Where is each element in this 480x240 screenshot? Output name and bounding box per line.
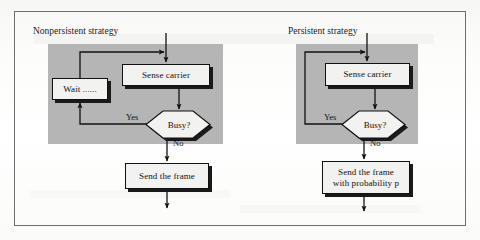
node-busy-persistent[interactable]: Busy? [345, 111, 405, 138]
node-sense-carrier-nonpersistent[interactable]: Sense carrier [122, 64, 210, 86]
edge-label-yes-nonpersistent: Yes [126, 112, 138, 122]
node-send-frame-label-line2: with probability p [333, 178, 399, 189]
node-wait[interactable]: Wait ...... [52, 78, 108, 100]
node-wait-label: Wait ...... [63, 84, 97, 95]
node-send-frame-label-line1: Send the frame [333, 167, 399, 178]
edge-label-no-persistent: No [370, 138, 380, 148]
node-send-frame-label: Send the frame [139, 171, 195, 182]
node-sense-carrier-persistent[interactable]: Sense carrier [325, 63, 410, 86]
node-busy-nonpersistent[interactable]: Busy? [148, 111, 210, 138]
node-busy-label: Busy? [148, 111, 210, 138]
node-send-frame-persistent[interactable]: Send the frame with probability p [322, 161, 410, 194]
edge-label-yes-persistent: Yes [324, 112, 336, 122]
node-busy-label: Busy? [345, 111, 405, 138]
panel-title-nonpersistent: Nonpersistent strategy [33, 26, 118, 36]
node-sense-carrier-label: Sense carrier [343, 69, 391, 80]
node-sense-carrier-label: Sense carrier [142, 70, 190, 81]
edge-label-no-nonpersistent: No [173, 138, 183, 148]
panel-title-persistent: Persistent strategy [288, 26, 357, 36]
node-send-frame-nonpersistent[interactable]: Send the frame [125, 163, 209, 189]
